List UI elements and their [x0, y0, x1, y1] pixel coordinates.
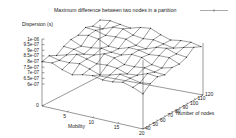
y-tick-label: 50 [153, 122, 159, 127]
y-tick-label: 120 [205, 92, 213, 97]
x-tick-label: 15 [114, 125, 120, 130]
y-tick-label: 110 [198, 96, 206, 101]
y-tick-label: 100 [190, 101, 198, 106]
y-axis-label: Number of nodes [176, 111, 214, 116]
legend-sample [200, 9, 228, 12]
y-tick-label: 60 [160, 118, 166, 123]
x-tick-label: 20 [139, 131, 145, 136]
x-tick-label: 10 [89, 120, 95, 125]
y-tick-label: 90 [183, 105, 189, 110]
y-tick-label: 70 [168, 113, 174, 118]
z-tick-label: 6.5e-07 [1, 76, 39, 81]
z-tick-label: 8.5e-07 [1, 53, 39, 58]
x-tick-label: 5 [63, 114, 66, 119]
z-tick-label: 7e-07 [1, 70, 39, 75]
x-tick-label: 0 [36, 103, 39, 108]
z-tick-label: 8e-07 [1, 59, 39, 64]
legend-label: Maximum difference between two nodes in … [54, 8, 176, 13]
z-axis-label: Dispersion (s) [22, 22, 53, 27]
y-tick-label: 40 [145, 126, 151, 131]
z-tick-label: 6e-07 [1, 82, 39, 87]
z-tick-label: 1e-06 [1, 37, 39, 42]
surface-mesh [42, 20, 202, 95]
z-tick-label: 7.5e-07 [1, 65, 39, 70]
z-tick-label: 9e-07 [1, 48, 39, 53]
y-tick-label: 80 [175, 109, 181, 114]
z-tick-label: 9.5e-07 [1, 42, 39, 47]
x-axis-label: Mobility [68, 124, 85, 129]
